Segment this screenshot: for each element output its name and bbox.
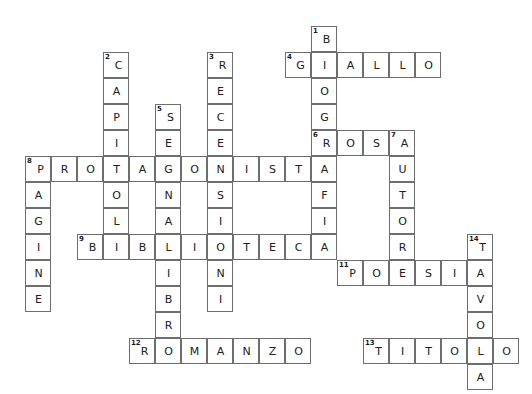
crossword-cell[interactable]: L — [389, 52, 415, 78]
crossword-cell[interactable]: I — [155, 260, 181, 286]
crossword-cell[interactable]: O — [441, 338, 467, 364]
crossword-cell[interactable]: L — [155, 234, 181, 260]
crossword-cell[interactable]: I — [103, 234, 129, 260]
crossword-cell[interactable]: O — [467, 312, 493, 338]
crossword-cell[interactable]: V — [467, 286, 493, 312]
crossword-cell[interactable]: E — [207, 78, 233, 104]
crossword-cell[interactable]: A — [25, 182, 51, 208]
crossword-cell[interactable]: N — [233, 338, 259, 364]
crossword-cell[interactable]: O — [77, 156, 103, 182]
crossword-cell[interactable]: 4G — [285, 52, 311, 78]
crossword-cell[interactable]: F — [311, 182, 337, 208]
crossword-cell[interactable]: I — [207, 286, 233, 312]
crossword-cell[interactable]: E — [25, 286, 51, 312]
crossword-cell[interactable]: E — [389, 260, 415, 286]
crossword-cell[interactable]: N — [207, 156, 233, 182]
crossword-cell[interactable]: C — [285, 234, 311, 260]
crossword-cell[interactable]: I — [181, 234, 207, 260]
cell-letter: T — [242, 242, 250, 253]
crossword-cell[interactable]: I — [25, 234, 51, 260]
crossword-cell[interactable]: G — [311, 104, 337, 130]
cell-letter: A — [476, 372, 485, 383]
crossword-cell[interactable]: A — [337, 52, 363, 78]
crossword-cell[interactable]: 2C — [103, 52, 129, 78]
crossword-cell[interactable]: L — [363, 52, 389, 78]
crossword-cell[interactable]: T — [389, 182, 415, 208]
crossword-cell[interactable]: R — [51, 156, 77, 182]
crossword-cell[interactable]: E — [259, 234, 285, 260]
crossword-cell[interactable]: O — [337, 130, 363, 156]
crossword-cell[interactable]: T — [233, 234, 259, 260]
crossword-cell[interactable]: 3R — [207, 52, 233, 78]
crossword-cell[interactable]: B — [155, 286, 181, 312]
crossword-cell[interactable]: 7A — [389, 130, 415, 156]
cell-letter: C — [110, 60, 123, 71]
crossword-cell[interactable]: I — [207, 208, 233, 234]
crossword-cell[interactable]: N — [155, 182, 181, 208]
crossword-cell[interactable]: 6R — [311, 130, 337, 156]
crossword-cell[interactable]: G — [155, 156, 181, 182]
crossword-cell[interactable]: 14T — [467, 234, 493, 260]
cell-letter: I — [322, 60, 326, 71]
crossword-cell[interactable]: A — [207, 338, 233, 364]
crossword-cell[interactable]: M — [181, 338, 207, 364]
crossword-cell[interactable]: S — [363, 130, 389, 156]
crossword-cell[interactable]: O — [181, 156, 207, 182]
crossword-cell[interactable]: I — [441, 260, 467, 286]
crossword-cell[interactable]: T — [285, 156, 311, 182]
crossword-cell[interactable]: B — [129, 234, 155, 260]
crossword-cell[interactable]: A — [103, 78, 129, 104]
crossword-cell[interactable]: S — [415, 260, 441, 286]
crossword-cell[interactable]: O — [389, 208, 415, 234]
crossword-cell[interactable]: 13T — [363, 338, 389, 364]
crossword-cell[interactable]: N — [207, 260, 233, 286]
crossword-cell[interactable]: A — [129, 156, 155, 182]
crossword-cell[interactable]: R — [155, 312, 181, 338]
cell-letter: I — [400, 346, 404, 357]
crossword-cell[interactable]: 9B — [77, 234, 103, 260]
crossword-cell[interactable]: O — [103, 182, 129, 208]
crossword-cell[interactable]: T — [415, 338, 441, 364]
crossword-cell[interactable]: A — [467, 364, 493, 390]
crossword-cell[interactable]: O — [363, 260, 389, 286]
crossword-cell[interactable]: E — [155, 130, 181, 156]
crossword-cell[interactable]: 8P — [25, 156, 51, 182]
crossword-cell[interactable]: 12R — [129, 338, 155, 364]
cell-letter: L — [164, 242, 171, 253]
crossword-cell[interactable]: O — [311, 78, 337, 104]
crossword-cell[interactable]: S — [207, 182, 233, 208]
crossword-cell[interactable]: A — [311, 234, 337, 260]
crossword-cell[interactable]: E — [207, 130, 233, 156]
crossword-cell[interactable]: N — [25, 260, 51, 286]
cell-letter: C — [294, 242, 303, 253]
crossword-cell[interactable]: O — [493, 338, 519, 364]
crossword-cell[interactable]: I — [389, 338, 415, 364]
crossword-cell[interactable]: C — [207, 104, 233, 130]
crossword-cell[interactable]: I — [311, 52, 337, 78]
crossword-cell[interactable]: A — [467, 260, 493, 286]
crossword-cell[interactable]: R — [389, 234, 415, 260]
crossword-cell[interactable]: P — [103, 104, 129, 130]
crossword-cell[interactable]: T — [103, 156, 129, 182]
crossword-cell[interactable]: 11P — [337, 260, 363, 286]
crossword-cell[interactable]: O — [415, 52, 441, 78]
crossword-cell[interactable]: L — [103, 208, 129, 234]
crossword-cell[interactable]: 1B — [311, 26, 337, 52]
crossword-cell[interactable]: I — [311, 208, 337, 234]
cell-letter: A — [476, 268, 485, 279]
crossword-cell[interactable]: O — [285, 338, 311, 364]
crossword-cell[interactable]: I — [233, 156, 259, 182]
crossword-cell[interactable]: G — [25, 208, 51, 234]
crossword-cell[interactable]: S — [259, 156, 285, 182]
cell-letter: Z — [268, 346, 277, 357]
crossword-cell[interactable]: L — [467, 338, 493, 364]
crossword-cell[interactable]: O — [207, 234, 233, 260]
crossword-cell[interactable]: A — [311, 156, 337, 182]
crossword-cell[interactable]: I — [103, 130, 129, 156]
crossword-cell[interactable]: O — [155, 338, 181, 364]
crossword-cell[interactable]: 5S — [155, 104, 181, 130]
crossword-cell[interactable]: Z — [259, 338, 285, 364]
cell-letter: G — [319, 112, 329, 123]
crossword-cell[interactable]: A — [155, 208, 181, 234]
crossword-cell[interactable]: U — [389, 156, 415, 182]
